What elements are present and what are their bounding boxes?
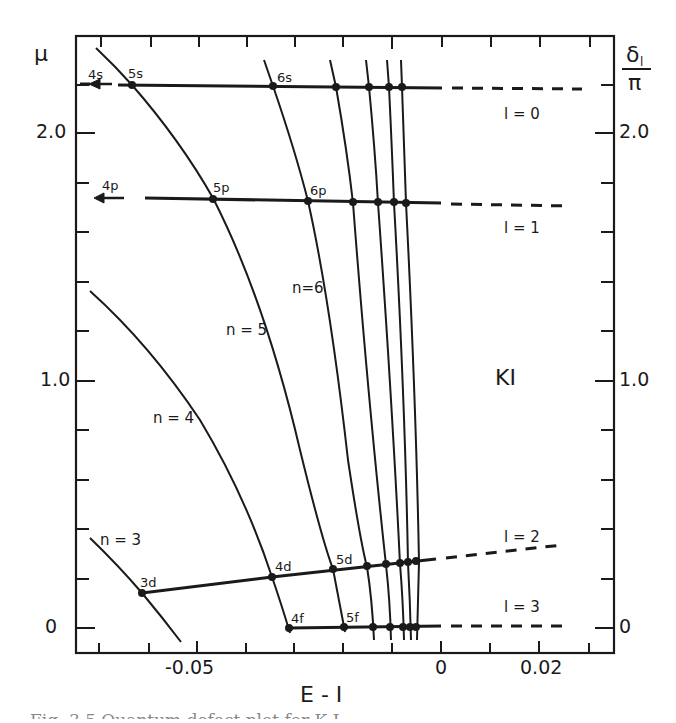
y-tick-left-2: 2.0	[36, 122, 66, 141]
y-tick-left-0: 0	[45, 617, 57, 636]
series-label-l2: l = 2	[504, 530, 540, 545]
l1-dashed	[451, 204, 570, 206]
y-axis-right-title-denominator: π	[628, 72, 641, 94]
state-label-4f: 4f	[291, 612, 304, 625]
series-label-l3: l = 3	[504, 600, 540, 615]
state-label-5d: 5d	[336, 553, 353, 566]
y-axis-left-title: μ	[34, 43, 48, 65]
x-tick-002: 0.02	[520, 658, 562, 677]
curve-label-n3: n = 3	[100, 533, 141, 548]
l-series-lines	[80, 84, 582, 628]
quantum-defect-chart	[0, 0, 676, 723]
x-tick-0: 0	[435, 658, 447, 677]
y-tick-right-0: 0	[619, 617, 631, 636]
series-label-l0: l = 0	[504, 107, 540, 122]
curve-label-n5: n = 5	[226, 323, 267, 338]
curve-n10	[401, 60, 419, 640]
series-label-l1: l = 1	[504, 221, 540, 236]
y-ticks	[76, 85, 614, 628]
l0-dashed	[452, 88, 582, 89]
l0-solid	[118, 85, 442, 88]
state-label-4p: 4p	[102, 179, 119, 192]
l2-solid-a	[142, 577, 272, 593]
species-label: KI	[495, 367, 516, 389]
y-tick-right-2: 2.0	[619, 122, 649, 141]
l2-dashed	[446, 545, 562, 558]
state-label-6s: 6s	[277, 71, 292, 84]
y-axis-right-title-numerator: δ	[626, 44, 639, 66]
curve-label-n6: n=6	[292, 281, 324, 296]
state-label-4s: 4s	[88, 68, 103, 81]
curve-label-n4: n = 4	[153, 411, 194, 426]
curve-n6	[264, 60, 374, 640]
state-label-4d: 4d	[275, 560, 292, 573]
state-label-3d: 3d	[140, 576, 157, 589]
curve-n4	[90, 291, 290, 633]
state-label-5f: 5f	[346, 611, 359, 624]
state-label-6p: 6p	[310, 184, 327, 197]
x-tick-m005: -0.05	[165, 658, 214, 677]
state-label-5p: 5p	[213, 181, 230, 194]
n-curves	[90, 48, 419, 642]
y-tick-left-1: 1.0	[40, 370, 70, 389]
y-axis-right-title-subscript: l	[640, 56, 643, 68]
state-label-5s: 5s	[128, 67, 143, 80]
y-tick-right-1: 1.0	[619, 370, 649, 389]
x-axis-title: E - I	[300, 684, 342, 706]
